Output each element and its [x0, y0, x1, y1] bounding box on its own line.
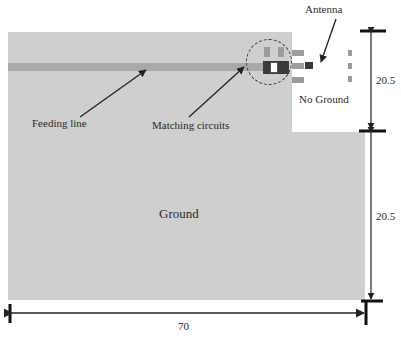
antenna-arrow [321, 19, 336, 62]
matching-circuits-arrow [189, 67, 244, 117]
annotation-arrows [0, 0, 401, 340]
feeding-line-arrow [80, 70, 146, 117]
